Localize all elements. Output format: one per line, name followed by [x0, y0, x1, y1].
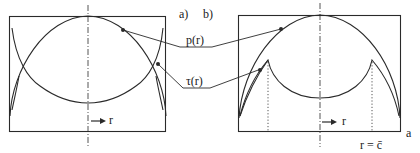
shear-marker-b	[258, 68, 262, 72]
radius-a-label: a	[406, 127, 411, 139]
diagram-canvas	[0, 0, 420, 153]
panel-b-r-arrow-head	[331, 119, 337, 125]
panel-b-shear-curve	[240, 60, 399, 116]
panel-a-shear-curve	[12, 28, 163, 103]
panel-b-frame	[239, 16, 401, 132]
critical-radius-label: r = c̄	[360, 139, 382, 151]
panel-a-label: a)	[179, 8, 188, 20]
shear-marker-a	[156, 62, 160, 66]
panel-a-frame	[10, 17, 166, 132]
pressure-marker-a	[121, 28, 125, 32]
panel-a-r-arrow-head	[100, 118, 106, 124]
panel-b-label: b)	[203, 8, 213, 20]
panel-b-r-label: r	[342, 115, 346, 127]
shear-label: τ(r)	[186, 75, 203, 87]
contact-stress-diagram: a) b) p(r) τ(r) r r a r = c̄	[0, 0, 420, 153]
pressure-label: p(r)	[186, 34, 204, 46]
pressure-marker-b	[279, 27, 283, 31]
panel-a-r-label: r	[109, 114, 113, 126]
